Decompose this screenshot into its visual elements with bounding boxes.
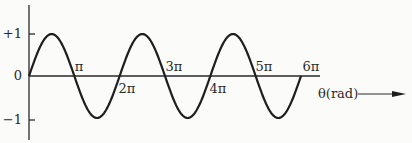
y-label-zero: 0 [14, 68, 22, 83]
x-axis-title: θ(rad) [318, 86, 358, 101]
x-label-3pi: 3π [166, 59, 183, 74]
sine-wave-chart: +1 0 −1 π 2π 3π 4π 5π 6π θ(rad) [0, 0, 412, 143]
y-label-plus-one: +1 [3, 26, 22, 41]
x-label-6pi: 6π [303, 59, 320, 74]
y-label-minus-one: −1 [3, 112, 22, 127]
x-label-4pi: 4π [210, 81, 227, 96]
x-label-5pi: 5π [256, 59, 273, 74]
arrow-right-icon [392, 91, 406, 97]
x-label-2pi: 2π [119, 81, 136, 96]
x-label-pi: π [75, 59, 84, 74]
